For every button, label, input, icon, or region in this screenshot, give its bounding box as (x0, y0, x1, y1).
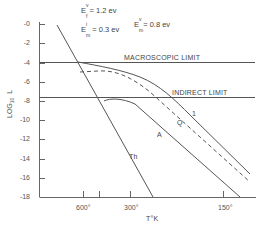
ytick-8: -16 (8, 174, 30, 181)
ytick-3: -6 (8, 78, 30, 85)
ytick-6: -12 (8, 135, 30, 142)
indirect-limit-label: INDIRECT LIMIT (172, 89, 228, 96)
ytick-1: -2 (8, 39, 30, 46)
y-axis-label: LOG10 L (6, 90, 15, 118)
curve-q-label: Q (177, 119, 183, 126)
ytick-7: -14 (8, 155, 30, 162)
curve-a-label: A (157, 131, 162, 138)
x-axis-label: T°K (146, 215, 158, 222)
x-ticks (84, 191, 224, 197)
curve-q (80, 71, 250, 182)
curve-1 (78, 62, 250, 174)
macroscopic-limit-label: MACROSCOPIC LIMIT (124, 54, 200, 61)
xtick-600: 600° (76, 204, 90, 211)
curve-1-label: 1 (192, 110, 196, 117)
param-em-v: Evm= 0.8 ev (134, 20, 170, 31)
xtick-150: 150° (218, 204, 232, 211)
param-ef: Evf = 1.2 ev (81, 6, 116, 17)
xtick-300: 300° (124, 204, 138, 211)
ytick-2: -4 (8, 59, 30, 66)
ytick-9: -18 (8, 193, 30, 200)
curve-th (57, 25, 153, 197)
ytick-0: -0 (8, 20, 30, 27)
param-em-i: Eim = 0.3 ev (81, 25, 119, 36)
curve-th-label: Th (129, 153, 138, 160)
chart-canvas (0, 0, 260, 233)
curve-a (104, 99, 240, 197)
